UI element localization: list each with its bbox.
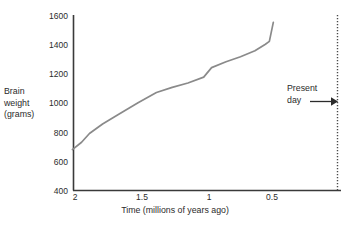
y-tick-1400: 1400 — [36, 40, 68, 50]
y-tick-1600: 1600 — [36, 11, 68, 21]
y-axis-title-line-1: Brain — [4, 86, 34, 98]
x-axis-title: Time (millions of years ago) — [0, 205, 350, 217]
y-axis-title: Brain weight (grams) — [4, 86, 34, 121]
y-axis-title-line-2: weight — [4, 98, 34, 110]
present-day-line-1: Present — [287, 83, 317, 95]
x-tick-1-5: 1.5 — [128, 192, 156, 202]
brain-weight-chart: 1600 1400 1200 1000 800 600 400 2 1.5 1 … — [0, 0, 350, 235]
present-day-line-2: day — [287, 95, 317, 107]
y-axis-title-line-3: (grams) — [4, 109, 34, 121]
y-tick-1200: 1200 — [36, 69, 68, 79]
y-tick-800: 800 — [36, 128, 68, 138]
x-tick-2: 2 — [61, 192, 89, 202]
x-tick-0-5: 0.5 — [258, 192, 286, 202]
brain-weight-curve — [72, 22, 273, 149]
y-tick-600: 600 — [36, 157, 68, 167]
x-tick-1: 1 — [195, 192, 223, 202]
y-tick-1000: 1000 — [36, 98, 68, 108]
present-day-annotation: Present day — [287, 83, 317, 106]
chart-canvas — [0, 0, 350, 235]
